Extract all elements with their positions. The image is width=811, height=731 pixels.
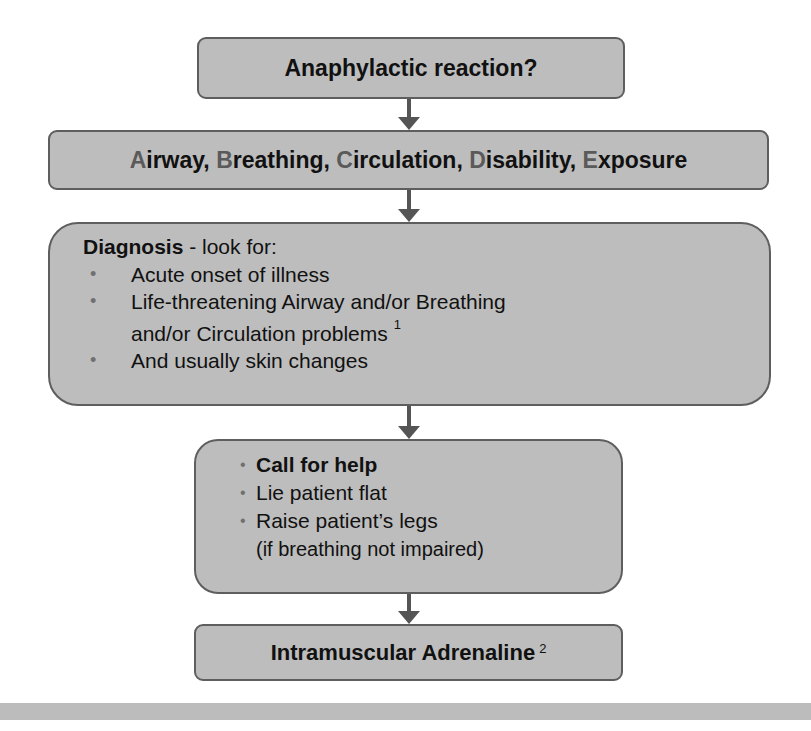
bullet-icon: • bbox=[90, 261, 96, 288]
bottom-divider-bar bbox=[0, 703, 811, 720]
abcde-breathing: Breathing, bbox=[216, 147, 336, 174]
bullet-icon: • bbox=[90, 347, 96, 374]
action-item: • Raise patient’s legs bbox=[240, 507, 484, 535]
action-item: • Lie patient flat bbox=[240, 479, 484, 507]
step-abcde-box: Airway, Breathing, Circulation, Disabili… bbox=[48, 130, 769, 190]
step-call-for-help-box: • Call for help • Lie patient flat • Rai… bbox=[194, 439, 623, 594]
footnote-marker: 2 bbox=[539, 641, 546, 656]
bullet-icon: • bbox=[240, 479, 246, 507]
diagnosis-title: Diagnosis - look for: bbox=[83, 234, 277, 260]
step-adrenaline-box: Intramuscular Adrenaline 2 bbox=[194, 624, 623, 681]
arrow-down-icon bbox=[398, 190, 420, 222]
diagnosis-criteria-list: • Acute onset of illness • Life-threaten… bbox=[83, 261, 506, 374]
abcde-circulation: Circulation, bbox=[336, 147, 469, 174]
action-note: (if breathing not impaired) bbox=[240, 535, 484, 563]
adrenaline-label: Intramuscular Adrenaline bbox=[271, 640, 535, 666]
step-anaphylactic-reaction-label: Anaphylactic reaction? bbox=[284, 55, 537, 82]
step-anaphylactic-reaction-box: Anaphylactic reaction? bbox=[197, 37, 625, 99]
bullet-icon: • bbox=[240, 507, 246, 535]
bullet-icon: • bbox=[90, 288, 96, 315]
step-diagnosis-box: Diagnosis - look for: • Acute onset of i… bbox=[48, 222, 771, 406]
initial-actions-list: • Call for help • Lie patient flat • Rai… bbox=[240, 451, 484, 563]
diagnosis-item: • Acute onset of illness bbox=[83, 261, 506, 288]
footnote-marker: 1 bbox=[394, 317, 401, 332]
abcde-airway: Airway, bbox=[130, 147, 217, 174]
diagnosis-item: • And usually skin changes bbox=[83, 347, 506, 374]
arrow-down-icon bbox=[398, 406, 420, 439]
diagnosis-item: • Life-threatening Airway and/or Breathi… bbox=[83, 288, 506, 347]
action-item: • Call for help bbox=[240, 451, 484, 479]
bullet-icon: • bbox=[240, 451, 246, 479]
arrow-down-icon bbox=[398, 594, 420, 624]
abcde-disability: Disability, bbox=[469, 147, 582, 174]
arrow-down-icon bbox=[398, 99, 420, 130]
abcde-exposure: Exposure bbox=[583, 147, 688, 174]
